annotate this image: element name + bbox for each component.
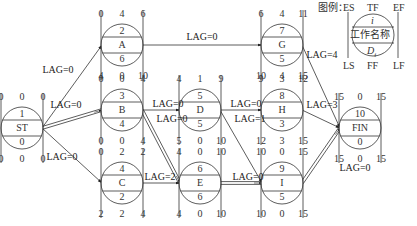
node-h-es: 9 [259,74,264,84]
node-g-num: 7 [280,26,285,36]
node-fin-tf: 0 [358,92,363,102]
node-c-num: 4 [120,164,125,174]
node-a-es: 0 [99,9,104,19]
node-st-name: ST [16,123,28,133]
node-e-dur: 6 [198,192,203,202]
node-g-ef: 11 [298,9,308,19]
node-d-lf: 10 [216,136,226,146]
node-fin-ls: 15 [334,154,344,164]
node-e-num: 6 [198,164,203,174]
node-h-num: 8 [280,91,285,101]
node-d-tf: 1 [198,74,203,84]
node-c-lf: 4 [141,209,146,219]
node-fin-ff: 0 [358,154,363,164]
node-a-ef: 6 [141,9,146,19]
node-b-name: B [119,105,126,115]
node-b-ff: 0 [120,136,125,146]
lag-label-b-d: LAG=0 [152,99,183,109]
lag-label-st-c: LAG=0 [46,152,77,162]
node-i-ef: 15 [298,147,308,157]
node-e-lf: 10 [216,209,226,219]
lag-label-c-e: LAG=2 [144,172,175,182]
node-c-ff: 2 [120,209,125,219]
node-b-lf: 4 [141,136,146,146]
lag-label-g-fin: LAG=4 [306,50,337,60]
arrow-e-i [220,182,262,185]
legend-ef: EF [393,3,405,13]
node-h-ff: 3 [280,136,285,146]
node-b-ef: 4 [141,74,146,84]
node-h-ef: 12 [298,74,308,84]
node-c-ef: 2 [141,147,146,157]
node-i-es: 10 [256,147,266,157]
node-st-lf: 0 [41,154,46,164]
node-fin-num: 10 [355,109,365,119]
lag-label-b-e: LAG=0 [156,114,187,124]
node-g-name: G [278,40,285,50]
node-h-tf: 3 [280,74,285,84]
node-st-dur: 0 [20,137,25,147]
node-e-ff: 0 [198,209,203,219]
node-st-ls: 0 [0,154,4,164]
node-e-es: 4 [177,147,182,157]
node-a-dur: 6 [120,54,125,64]
node-d-ff: 0 [198,136,203,146]
node-fin-lf: 15 [376,154,386,164]
node-a-tf: 4 [120,9,125,19]
node-fin-ef: 15 [376,92,386,102]
node-h-name: H [278,105,285,115]
node-i-ls: 10 [256,209,266,219]
node-e-name: E [197,178,203,188]
node-st-tf: 0 [20,92,25,102]
node-d-num: 5 [198,91,203,101]
legend-ff: FF [367,61,378,71]
lag-label-h-fin: LAG=3 [306,100,337,110]
node-d-ef: 9 [219,74,224,84]
legend-row-name: 工作名称 [350,30,390,40]
lag-label-d-h: LAG=0 [230,99,261,109]
node-st-es: 0 [0,92,4,102]
node-a-num: 2 [120,26,125,36]
node-b-dur: 4 [120,119,125,129]
node-e-ef: 10 [216,147,226,157]
arrow-h-fin [302,110,340,128]
node-g-es: 6 [259,9,264,19]
node-h-dur: 3 [280,119,285,129]
node-e-ls: 4 [177,209,182,219]
node-d-es: 4 [177,74,182,84]
node-d-name: D [196,105,203,115]
legend-row-index: i [371,16,374,26]
node-st-ef: 0 [41,92,46,102]
node-i-tf: 0 [280,147,285,157]
node-b-ls: 0 [99,136,104,146]
node-i-name: I [280,178,283,188]
lag-label-e-i: LAG=0 [232,172,263,182]
node-h-ls: 12 [256,136,266,146]
legend-row-duration: Di [367,46,376,60]
lag-label-a-g: LAG=0 [186,32,217,42]
node-i-num: 9 [280,164,285,174]
legend-tf: TF [367,3,379,13]
node-fin-es: 15 [334,92,344,102]
node-h-lf: 15 [298,136,308,146]
node-fin-name: FIN [352,123,368,133]
node-a-name: A [118,40,125,50]
node-c-tf: 2 [120,147,125,157]
node-d-ls: 5 [177,136,182,146]
arrow-st-a [42,45,102,128]
lag-label-st-a: LAG=0 [42,65,73,75]
node-b-tf: 0 [120,74,125,84]
node-i-lf: 15 [298,209,308,219]
node-g-tf: 4 [280,9,285,19]
node-e-tf: 0 [198,147,203,157]
node-st-ff: 0 [20,154,25,164]
legend-es: ES [343,3,355,13]
node-d-dur: 5 [198,119,203,129]
lag-label-i-fin: LAG=0 [339,163,370,173]
node-c-name: C [119,178,126,188]
node-c-dur: 2 [120,192,125,202]
legend-lf: LF [393,61,405,71]
node-c-ls: 2 [99,209,104,219]
node-c-es: 0 [99,147,104,157]
lag-label-d-i: LAG=1 [234,114,265,124]
